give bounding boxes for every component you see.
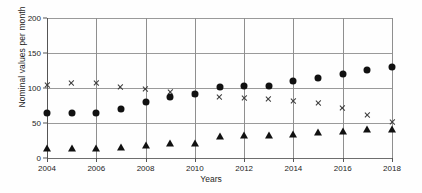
gridline-x-2018 <box>392 18 393 158</box>
data-point-cross-series-2005 <box>68 80 75 87</box>
y-tick-label-50: 50 <box>32 119 41 128</box>
data-point-cross-series-2014 <box>290 98 297 105</box>
x-tick-label-2016: 2016 <box>334 164 352 173</box>
data-point-triangle-series-2010 <box>191 139 199 146</box>
x-tick-mark-2012 <box>244 158 245 162</box>
gridline-x-2006 <box>96 18 97 158</box>
gridline-y-0 <box>47 158 392 159</box>
gridline-y-50 <box>47 123 392 124</box>
x-tick-mark-2014 <box>293 158 294 162</box>
data-point-triangle-series-2006 <box>92 145 100 152</box>
data-point-triangle-series-2004 <box>43 145 51 152</box>
data-point-cross-series-2006 <box>93 80 100 87</box>
data-point-circle-series-2004 <box>44 109 51 116</box>
data-point-circle-series-2014 <box>290 78 297 85</box>
data-point-circle-series-2008 <box>142 99 149 106</box>
data-point-cross-series-2015 <box>315 99 322 106</box>
x-tick-mark-2018 <box>392 158 393 162</box>
data-point-triangle-series-2013 <box>265 131 273 138</box>
data-point-circle-series-2013 <box>265 82 272 89</box>
data-point-circle-series-2007 <box>117 106 124 113</box>
data-point-cross-series-2004 <box>44 81 51 88</box>
data-point-cross-series-2018 <box>389 118 396 125</box>
data-point-triangle-series-2015 <box>314 129 322 136</box>
data-point-cross-series-2007 <box>117 83 124 90</box>
data-point-cross-series-2017 <box>364 111 371 118</box>
x-tick-mark-2016 <box>343 158 344 162</box>
data-point-cross-series-2011 <box>216 94 223 101</box>
y-tick-mark-150 <box>43 53 47 54</box>
x-tick-mark-2008 <box>146 158 147 162</box>
x-tick-label-2014: 2014 <box>285 164 303 173</box>
gridline-y-150 <box>47 53 392 54</box>
data-point-triangle-series-2011 <box>216 133 224 140</box>
y-tick-label-150: 150 <box>28 49 41 58</box>
gridline-y-200 <box>47 18 392 19</box>
x-tick-label-2010: 2010 <box>186 164 204 173</box>
y-tick-label-0: 0 <box>37 154 41 163</box>
data-point-circle-series-2012 <box>241 82 248 89</box>
scatter-chart: Nominal values per month Years 050100150… <box>0 0 422 193</box>
data-point-triangle-series-2005 <box>68 145 76 152</box>
data-point-triangle-series-2016 <box>339 128 347 135</box>
gridline-x-2010 <box>195 18 196 158</box>
data-point-triangle-series-2008 <box>142 141 150 148</box>
data-point-circle-series-2009 <box>167 94 174 101</box>
data-point-circle-series-2017 <box>364 66 371 73</box>
x-tick-label-2012: 2012 <box>235 164 253 173</box>
x-tick-mark-2010 <box>195 158 196 162</box>
data-point-triangle-series-2014 <box>289 131 297 138</box>
data-point-circle-series-2005 <box>68 109 75 116</box>
data-point-circle-series-2006 <box>93 109 100 116</box>
x-tick-label-2008: 2008 <box>137 164 155 173</box>
y-tick-mark-50 <box>43 123 47 124</box>
data-point-circle-series-2011 <box>216 84 223 91</box>
data-point-cross-series-2012 <box>241 94 248 101</box>
data-point-triangle-series-2018 <box>388 125 396 132</box>
gridline-x-2016 <box>343 18 344 158</box>
x-tick-label-2004: 2004 <box>38 164 56 173</box>
x-tick-mark-2004 <box>47 158 48 162</box>
y-axis-label: Nominal values per month <box>17 0 27 127</box>
data-point-circle-series-2016 <box>339 71 346 78</box>
data-points <box>47 18 392 123</box>
plot-area: 050100150200 200420062008201020122014201… <box>47 18 392 158</box>
data-point-triangle-series-2012 <box>240 131 248 138</box>
data-point-cross-series-2016 <box>339 104 346 111</box>
data-point-triangle-series-2007 <box>117 143 125 150</box>
data-point-circle-series-2010 <box>191 91 198 98</box>
data-point-circle-series-2018 <box>389 64 396 71</box>
data-point-triangle-series-2017 <box>363 126 371 133</box>
y-tick-label-200: 200 <box>28 14 41 23</box>
data-point-cross-series-2013 <box>265 96 272 103</box>
x-tick-mark-2006 <box>96 158 97 162</box>
y-tick-mark-200 <box>43 18 47 19</box>
y-tick-label-100: 100 <box>28 84 41 93</box>
x-tick-label-2006: 2006 <box>87 164 105 173</box>
x-axis-label: Years <box>0 174 422 184</box>
data-point-triangle-series-2009 <box>166 140 174 147</box>
data-point-circle-series-2015 <box>315 75 322 82</box>
data-point-cross-series-2008 <box>142 85 149 92</box>
gridline-x-2004 <box>47 18 48 158</box>
x-tick-label-2018: 2018 <box>383 164 401 173</box>
